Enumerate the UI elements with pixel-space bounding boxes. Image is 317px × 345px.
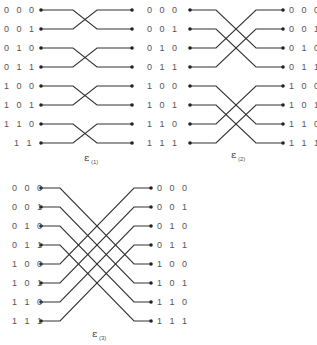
input-label: 0 1 1 (147, 62, 180, 72)
output-node (149, 319, 153, 323)
wire (41, 86, 132, 105)
output-node (130, 27, 134, 31)
output-label: 1 1 0 (157, 297, 190, 307)
input-label: 1 0 0 (12, 259, 45, 269)
panel-caption: ε (231, 149, 236, 160)
output-label: 1 1 1 (157, 316, 190, 326)
input-node (188, 103, 192, 107)
output-node (130, 46, 134, 50)
output-label: 0 1 0 (289, 43, 317, 53)
input-node (39, 122, 43, 126)
output-label: 0 1 1 (157, 240, 190, 250)
output-node (149, 205, 153, 209)
input-node (188, 84, 192, 88)
output-node (281, 84, 285, 88)
output-label: 1 1 0 (289, 119, 317, 129)
input-node (188, 141, 192, 145)
output-node (149, 224, 153, 228)
panel-caption: ε (92, 328, 97, 339)
output-node (281, 46, 285, 50)
output-label: 0 1 1 (289, 62, 317, 72)
output-node (281, 27, 285, 31)
input-node (188, 46, 192, 50)
input-label: 1 1 0 (147, 119, 180, 129)
input-label: 0 0 0 (12, 183, 45, 193)
panel-caption: ε (84, 152, 89, 163)
wire (41, 124, 132, 143)
exchange-permutation-diagram: 0 0 00 0 10 1 00 1 11 0 01 0 11 1 01 1ε(… (0, 0, 317, 345)
input-label: 1 1 1 (12, 316, 45, 326)
output-node (281, 141, 285, 145)
output-label: 1 0 1 (289, 100, 317, 110)
input-node (39, 8, 43, 12)
input-node (39, 84, 43, 88)
output-label: 0 0 0 (289, 5, 317, 15)
input-node (188, 122, 192, 126)
input-label: 1 0 1 (12, 278, 45, 288)
input-label: 0 1 0 (4, 43, 37, 53)
output-node (281, 122, 285, 126)
input-label: 0 0 1 (12, 202, 45, 212)
panel-epsilon-1: 0 0 00 0 10 1 00 1 11 0 01 0 11 1 01 1ε(… (4, 5, 134, 165)
output-node (130, 103, 134, 107)
output-node (149, 186, 153, 190)
panel-caption-subscript: (3) (99, 335, 106, 341)
input-node (188, 8, 192, 12)
input-node (188, 27, 192, 31)
output-label: 1 0 0 (157, 259, 190, 269)
output-label: 1 0 0 (289, 81, 317, 91)
panel-caption-subscript: (1) (91, 159, 98, 165)
output-node (149, 281, 153, 285)
input-node (39, 103, 43, 107)
wire (41, 124, 132, 143)
input-label: 1 0 1 (4, 100, 37, 110)
output-node (281, 8, 285, 12)
input-node (188, 65, 192, 69)
output-node (130, 122, 134, 126)
input-node (39, 27, 43, 31)
input-label: 0 0 0 (147, 5, 180, 15)
wire (41, 10, 132, 29)
input-label: 1 1 (14, 138, 34, 148)
panel-epsilon-2: 0 0 00 0 00 0 10 0 10 1 00 1 00 1 10 1 1… (147, 5, 317, 162)
wire (41, 48, 132, 67)
input-label: 0 0 1 (147, 24, 180, 34)
input-label: 1 0 0 (147, 81, 180, 91)
panel-caption-subscript: (2) (238, 156, 245, 162)
wire (41, 48, 132, 67)
input-label: 1 1 0 (4, 119, 37, 129)
output-node (281, 65, 285, 69)
input-label: 1 0 0 (4, 81, 37, 91)
output-label: 0 0 0 (157, 183, 190, 193)
input-label: 0 0 0 (4, 5, 37, 15)
output-label: 0 0 1 (157, 202, 190, 212)
input-label: 1 0 1 (147, 100, 180, 110)
output-label: 1 0 1 (157, 278, 190, 288)
output-node (281, 103, 285, 107)
input-label: 1 1 1 (147, 138, 180, 148)
output-node (130, 65, 134, 69)
output-node (149, 243, 153, 247)
output-label: 0 1 0 (157, 221, 190, 231)
output-node (130, 141, 134, 145)
input-node (39, 46, 43, 50)
input-node (39, 141, 43, 145)
input-node (39, 65, 43, 69)
output-node (130, 84, 134, 88)
panel-epsilon-3: 0 0 00 0 00 0 10 0 10 1 00 1 00 1 10 1 1… (12, 183, 190, 341)
input-label: 0 1 1 (12, 240, 45, 250)
output-label: 0 0 1 (289, 24, 317, 34)
input-label: 0 1 0 (12, 221, 45, 231)
input-label: 0 1 1 (4, 62, 37, 72)
input-label: 0 0 1 (4, 24, 37, 34)
input-label: 1 1 0 (12, 297, 45, 307)
output-node (149, 262, 153, 266)
output-node (149, 300, 153, 304)
input-label: 0 1 0 (147, 43, 180, 53)
wire (41, 10, 132, 29)
output-node (130, 8, 134, 12)
wire (41, 86, 132, 105)
output-label: 1 1 1 (289, 138, 317, 148)
